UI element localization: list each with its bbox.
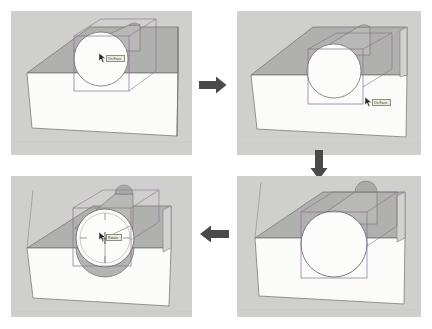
panel-4[interactable]: Rotate xyxy=(11,176,192,317)
panel-1[interactable]: On Face xyxy=(11,11,192,155)
arrow-1-label: step 1 to 2 xyxy=(199,94,200,95)
viewport-3 xyxy=(237,176,421,317)
panel-2[interactable]: On Face xyxy=(237,11,421,155)
arrow-left-1: step 3 to 4 xyxy=(199,225,229,243)
viewport-2 xyxy=(237,11,421,155)
arrow-3-label: step 3 to 4 xyxy=(199,243,200,244)
viewport-1 xyxy=(11,11,192,155)
tooltip-panel-1: On Face xyxy=(106,55,125,62)
figure-stage: On Face step 1 to 2 xyxy=(0,0,432,329)
arrow-right-icon xyxy=(199,76,227,94)
panel-3[interactable] xyxy=(237,176,421,317)
tooltip-panel-4: Rotate xyxy=(106,234,122,241)
figure-title: Cylinder rotation sequence in 3D modelin… xyxy=(0,0,1,1)
arrow-left-icon xyxy=(199,225,229,243)
tooltip-panel-2: On Face xyxy=(372,99,391,106)
arrow-right-1: step 1 to 2 xyxy=(199,76,227,94)
viewport-4 xyxy=(11,176,192,317)
